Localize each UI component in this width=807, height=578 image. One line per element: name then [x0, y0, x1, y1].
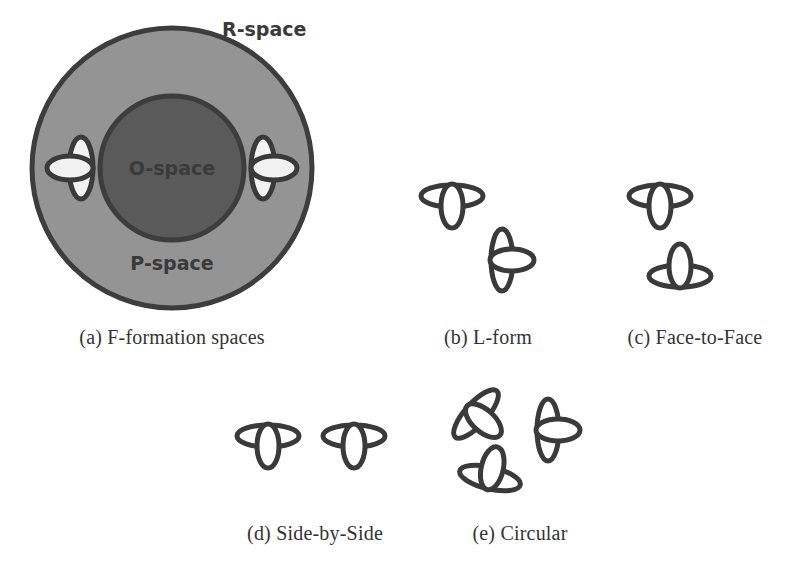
face-to-face-diagram	[618, 168, 768, 308]
circular-diagram	[438, 386, 588, 506]
person-head-ellipse	[441, 184, 463, 228]
person-head-ellipse	[343, 424, 365, 468]
panel-face-to-face	[618, 168, 768, 308]
person-head-ellipse	[47, 156, 93, 180]
caption-panel-b: (b) L-form	[400, 326, 576, 349]
person-head-ellipse	[257, 424, 279, 468]
label-r-space: R-space	[222, 18, 306, 40]
person-top	[629, 184, 691, 228]
person-head-ellipse	[251, 156, 297, 180]
person-lower-left	[457, 440, 527, 497]
person-right	[323, 424, 385, 468]
person-head-ellipse	[649, 184, 671, 228]
side-by-side-diagram	[228, 408, 398, 488]
person-right	[536, 399, 580, 461]
person-head-ellipse	[669, 244, 691, 288]
panel-l-form	[412, 168, 562, 308]
person-bottom	[490, 229, 534, 291]
person-head-ellipse	[536, 419, 580, 441]
caption-panel-a: (a) F-formation spaces	[26, 326, 318, 349]
f-formation-spaces-diagram: O-space P-space	[26, 22, 318, 314]
person-top	[421, 184, 483, 228]
caption-panel-c: (c) Face-to-Face	[590, 326, 800, 349]
person-upper-left	[446, 386, 520, 458]
label-p-space: P-space	[130, 252, 213, 274]
caption-panel-e: (e) Circular	[440, 522, 600, 545]
panel-f-formation-spaces: O-space P-space R-space	[26, 22, 318, 314]
caption-panel-d: (d) Side-by-Side	[210, 522, 420, 545]
person-bottom	[649, 244, 711, 288]
person-head-ellipse	[490, 249, 534, 271]
panel-circular	[438, 386, 588, 506]
l-form-diagram	[412, 168, 562, 308]
person-left	[237, 424, 299, 468]
label-o-space: O-space	[129, 157, 215, 179]
figure-root: O-space P-space R-space (a) F-formation …	[0, 0, 807, 578]
panel-side-by-side	[228, 408, 398, 488]
